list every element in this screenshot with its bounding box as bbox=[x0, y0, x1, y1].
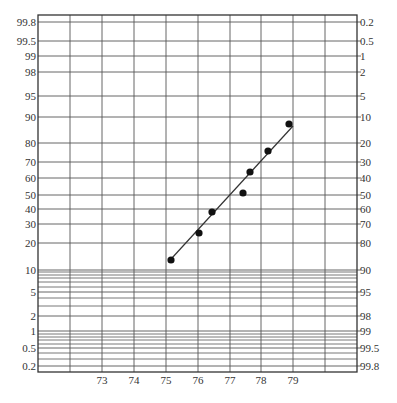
right-axis-tick-label: 1 bbox=[360, 50, 366, 62]
right-axis-tick-label: 2 bbox=[360, 66, 366, 78]
data-point bbox=[208, 208, 215, 215]
data-point bbox=[285, 120, 292, 127]
x-axis-tick-label: 73 bbox=[97, 374, 109, 386]
right-axis-tick-label: 10 bbox=[360, 111, 372, 123]
x-axis-tick-label: 74 bbox=[129, 374, 141, 386]
left-axis-tick-label: 95 bbox=[25, 90, 37, 102]
left-axis-tick-label: 99.8 bbox=[17, 16, 37, 28]
left-axis-tick-label: 20 bbox=[25, 237, 37, 249]
normal-probability-plot: 99.899.59998959080706050403020105210.50.… bbox=[0, 0, 397, 403]
right-axis-tick-label: 50 bbox=[360, 189, 372, 201]
data-point bbox=[246, 168, 253, 175]
left-axis-tick-label: 90 bbox=[25, 111, 37, 123]
data-point bbox=[167, 256, 174, 263]
right-axis-tick-label: 30 bbox=[360, 156, 372, 168]
right-axis-tick-label: 20 bbox=[360, 137, 372, 149]
right-axis-tick-label: 90 bbox=[360, 264, 372, 276]
major-gridlines bbox=[38, 22, 361, 366]
vertical-gridlines bbox=[70, 15, 325, 372]
left-axis-tick-label: 50 bbox=[25, 189, 37, 201]
left-axis-tick-label: 5 bbox=[31, 286, 37, 298]
right-axis-tick-label: 99.5 bbox=[360, 342, 380, 354]
data-point bbox=[239, 189, 246, 196]
left-axis-tick-label: 99.5 bbox=[17, 35, 37, 47]
data-point bbox=[264, 147, 271, 154]
plot-frame bbox=[38, 15, 357, 372]
left-axis-tick-label: 0.5 bbox=[22, 342, 36, 354]
right-axis-tick-label: 99 bbox=[360, 325, 372, 337]
x-axis-tick-label: 78 bbox=[256, 374, 268, 386]
x-axis-labels: 73747576777879 bbox=[97, 374, 300, 386]
right-axis-tick-label: 80 bbox=[360, 237, 372, 249]
left-axis-tick-label: 99 bbox=[25, 50, 37, 62]
x-axis-tick-label: 76 bbox=[193, 374, 205, 386]
x-axis-tick-label: 77 bbox=[225, 374, 237, 386]
right-axis-tick-label: 95 bbox=[360, 286, 372, 298]
x-axis-tick-label: 79 bbox=[288, 374, 300, 386]
left-axis-tick-label: 30 bbox=[25, 218, 37, 230]
fit-line bbox=[172, 126, 293, 258]
left-axis-labels: 99.899.59998959080706050403020105210.50.… bbox=[17, 16, 37, 372]
left-axis-tick-label: 1 bbox=[31, 325, 37, 337]
left-axis-tick-label: 0.2 bbox=[22, 360, 36, 372]
x-axis-tick-label: 75 bbox=[161, 374, 173, 386]
minor-gridlines bbox=[38, 272, 357, 359]
right-axis-tick-label: 60 bbox=[360, 203, 372, 215]
left-axis-tick-label: 80 bbox=[25, 137, 37, 149]
left-axis-tick-label: 10 bbox=[25, 264, 37, 276]
right-axis-tick-label: 0.2 bbox=[360, 16, 374, 28]
right-axis-tick-label: 40 bbox=[360, 172, 372, 184]
left-axis-tick-label: 40 bbox=[25, 203, 37, 215]
right-axis-labels: 0.20.512510203040506070809095989999.599.… bbox=[360, 16, 380, 372]
left-axis-tick-label: 70 bbox=[25, 156, 37, 168]
right-axis-tick-label: 98 bbox=[360, 310, 372, 322]
data-point bbox=[195, 229, 202, 236]
right-axis-tick-label: 99.8 bbox=[360, 360, 380, 372]
left-axis-tick-label: 98 bbox=[25, 66, 37, 78]
left-axis-tick-label: 2 bbox=[31, 310, 37, 322]
right-axis-tick-label: 5 bbox=[360, 90, 366, 102]
right-axis-tick-label: 0.5 bbox=[360, 35, 374, 47]
right-axis-tick-label: 70 bbox=[360, 218, 372, 230]
left-axis-tick-label: 60 bbox=[25, 172, 37, 184]
